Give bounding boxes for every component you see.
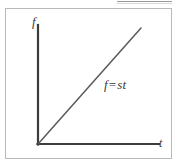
x-axis-label: t: [159, 137, 162, 149]
equation-operator: =: [108, 77, 118, 92]
plot-area: f t f=st: [6, 9, 173, 160]
equation-annotation: f=st: [104, 78, 126, 91]
y-axis-label: f: [32, 15, 36, 28]
figure-root: f t f=st: [0, 0, 187, 166]
cropped-rule-above: [117, 1, 172, 2]
figure-frame: f t f=st: [5, 8, 172, 159]
plot-canvas: [6, 9, 173, 160]
equation-rhs: st: [117, 77, 126, 92]
